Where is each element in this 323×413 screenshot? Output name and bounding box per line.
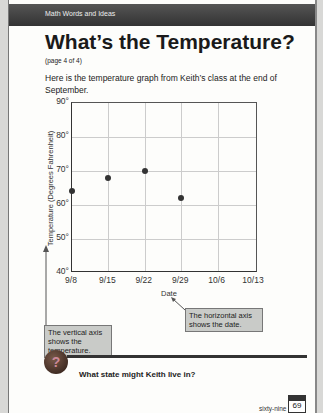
horizontal-axis-callout: The horizontal axis shows the date. <box>185 308 263 332</box>
question-divider <box>67 355 307 358</box>
page-number-word: sixty-nine <box>259 405 286 412</box>
question-mark-icon: ? <box>44 350 68 374</box>
question-text: What state might Keith live in? <box>79 370 195 379</box>
workbook-page: Math Words and Ideas What’s the Temperat… <box>8 0 317 413</box>
page-number-badge: 69 <box>288 395 306 413</box>
